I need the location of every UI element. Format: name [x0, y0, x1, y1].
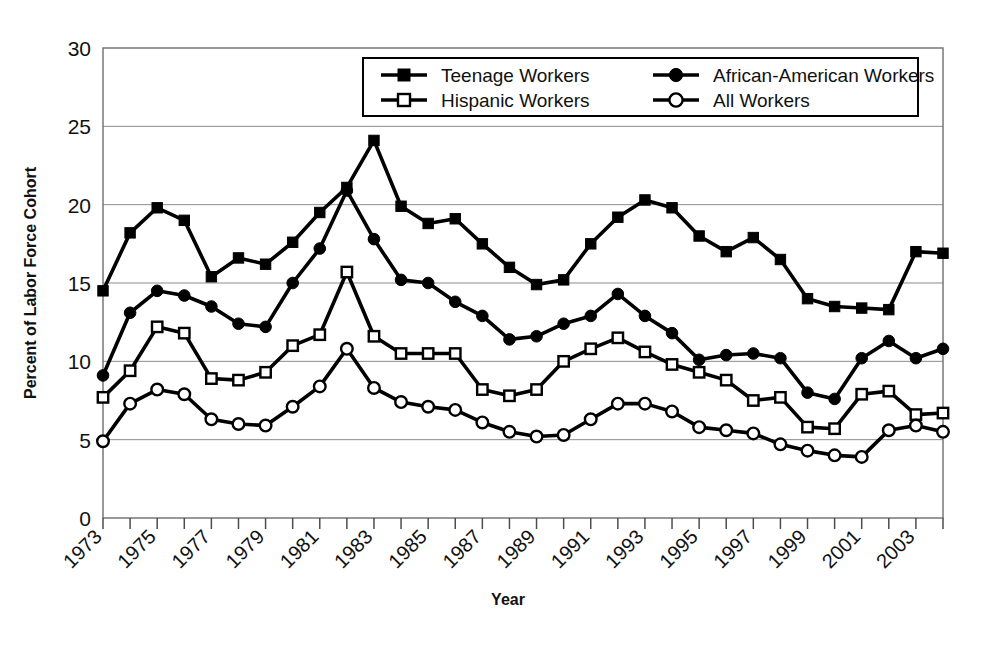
- marker-open-circle: [124, 398, 136, 410]
- marker-filled-circle: [829, 393, 841, 405]
- marker-open-square: [450, 348, 460, 358]
- marker-filled-circle: [748, 348, 760, 360]
- marker-filled-square: [125, 228, 135, 238]
- marker-filled-square: [938, 248, 948, 258]
- marker-open-square: [829, 424, 839, 434]
- y-tick-label: 5: [79, 429, 91, 452]
- marker-open-circle: [477, 417, 489, 429]
- marker-filled-square: [477, 239, 487, 249]
- marker-open-square: [152, 322, 162, 332]
- marker-open-square: [206, 373, 216, 383]
- marker-open-square: [504, 391, 514, 401]
- marker-open-circle: [585, 414, 597, 426]
- marker-open-square: [315, 330, 325, 340]
- marker-open-circle: [666, 406, 678, 418]
- marker-open-square: [558, 356, 568, 366]
- marker-filled-circle: [910, 352, 922, 364]
- marker-open-square: [531, 384, 541, 394]
- x-tick-label-group: 1995: [655, 525, 702, 572]
- marker-open-square: [640, 347, 650, 357]
- x-tick-label-group: 1999: [763, 525, 810, 572]
- marker-filled-square: [398, 69, 410, 81]
- marker-filled-square: [802, 293, 812, 303]
- marker-open-circle: [449, 404, 461, 416]
- marker-open-circle: [341, 343, 353, 355]
- x-tick-label: 1985: [384, 525, 431, 572]
- marker-open-circle: [314, 381, 326, 393]
- marker-filled-square: [721, 246, 731, 256]
- x-tick-label-group: 1975: [113, 525, 160, 572]
- marker-open-circle: [720, 424, 732, 436]
- series-3: [98, 267, 948, 434]
- series-2: [97, 185, 949, 405]
- marker-filled-circle: [558, 318, 570, 330]
- x-tick-label: 1981: [276, 525, 323, 572]
- marker-filled-square: [857, 303, 867, 313]
- marker-open-square: [287, 340, 297, 350]
- series-line: [103, 140, 943, 309]
- marker-filled-circle: [368, 233, 380, 245]
- marker-open-square: [369, 331, 379, 341]
- legend-label: Teenage Workers: [441, 65, 590, 86]
- marker-open-circle: [97, 435, 109, 447]
- marker-filled-square: [748, 232, 758, 242]
- x-tick-label: 1975: [113, 525, 160, 572]
- marker-open-circle: [287, 401, 299, 413]
- marker-filled-square: [558, 275, 568, 285]
- marker-open-square: [884, 386, 894, 396]
- marker-filled-square: [694, 231, 704, 241]
- marker-open-square: [938, 408, 948, 418]
- marker-filled-square: [423, 218, 433, 228]
- series-1: [98, 135, 948, 315]
- y-tick-label: 15: [68, 272, 91, 295]
- marker-open-square: [857, 389, 867, 399]
- marker-filled-square: [260, 259, 270, 269]
- marker-filled-square: [504, 262, 514, 272]
- marker-filled-circle: [639, 310, 651, 322]
- x-tick-label: 1987: [438, 525, 485, 572]
- marker-filled-square: [206, 272, 216, 282]
- marker-open-circle: [260, 420, 272, 432]
- marker-open-circle: [206, 414, 218, 426]
- marker-open-square: [477, 384, 487, 394]
- x-tick-label: 1977: [167, 525, 214, 572]
- marker-open-square: [125, 366, 135, 376]
- marker-open-square: [911, 409, 921, 419]
- marker-filled-square: [884, 304, 894, 314]
- marker-filled-square: [531, 279, 541, 289]
- x-tick-label-group: 1981: [276, 525, 323, 572]
- marker-filled-circle: [449, 296, 461, 308]
- marker-open-circle: [558, 429, 570, 441]
- marker-open-circle: [612, 398, 624, 410]
- marker-filled-square: [640, 195, 650, 205]
- marker-open-circle: [775, 439, 787, 451]
- marker-filled-circle: [422, 277, 434, 289]
- marker-open-square: [260, 367, 270, 377]
- marker-open-square: [667, 359, 677, 369]
- marker-open-circle: [178, 388, 190, 400]
- y-axis-title-group: Percent of Labor Force Cohort: [22, 166, 39, 399]
- marker-filled-square: [911, 246, 921, 256]
- x-tick-label: 1993: [601, 525, 648, 572]
- marker-open-circle: [531, 431, 543, 443]
- y-tick-label: 20: [68, 194, 91, 217]
- marker-filled-square: [450, 214, 460, 224]
- chart-figure: 0510152025301973197519771979198119831985…: [0, 0, 982, 646]
- marker-filled-circle: [233, 318, 245, 330]
- marker-filled-circle: [720, 349, 732, 361]
- marker-filled-circle: [178, 290, 190, 302]
- marker-filled-circle: [585, 310, 597, 322]
- marker-open-square: [398, 94, 410, 106]
- marker-open-circle: [233, 418, 245, 430]
- marker-filled-circle: [260, 321, 272, 333]
- marker-open-circle: [856, 451, 868, 463]
- x-tick-label: 1991: [547, 525, 594, 572]
- marker-filled-circle: [341, 185, 353, 197]
- marker-filled-square: [179, 215, 189, 225]
- legend-label: All Workers: [713, 90, 810, 111]
- marker-filled-circle: [206, 301, 218, 313]
- marker-open-circle: [693, 421, 705, 433]
- marker-filled-circle: [883, 335, 895, 347]
- x-tick-label-group: 1993: [601, 525, 648, 572]
- marker-filled-circle: [477, 310, 489, 322]
